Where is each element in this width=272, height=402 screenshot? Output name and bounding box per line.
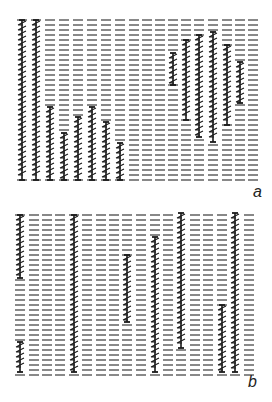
replicated-strand — [116, 143, 124, 180]
replicated-strand — [32, 20, 40, 180]
replicated-strand — [88, 107, 96, 180]
replicated-strand — [182, 40, 190, 120]
panel-label-a: a — [253, 183, 262, 201]
panel-label-b: b — [248, 373, 257, 391]
replicated-strand — [236, 62, 244, 103]
replicated-strand — [123, 255, 131, 322]
panel-b — [15, 213, 254, 375]
replicated-strand — [18, 20, 26, 180]
replicated-strand — [16, 215, 24, 278]
replicated-strand — [218, 305, 226, 372]
replicated-strand — [74, 117, 82, 180]
replicated-strand — [16, 342, 24, 372]
replicated-strand — [151, 237, 159, 372]
replicated-strand — [70, 215, 78, 372]
replicated-strand — [46, 107, 54, 180]
replicated-strand — [209, 32, 217, 142]
panel-a — [17, 20, 258, 180]
replicated-strand — [60, 133, 68, 180]
replicated-strand — [169, 53, 177, 85]
replicated-strand — [231, 213, 239, 372]
replicated-strand — [195, 35, 203, 137]
replicated-strand — [102, 122, 110, 180]
replicated-strand — [223, 45, 231, 125]
replicated-strand — [177, 213, 185, 348]
replication-diagram — [0, 0, 272, 402]
